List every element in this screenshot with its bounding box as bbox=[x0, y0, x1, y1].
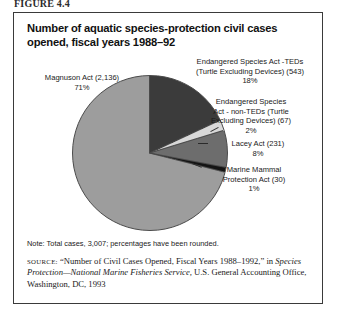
pie-label-teds-line1: Endangered Species Act -TEDs bbox=[186, 57, 314, 67]
pie-label-non-teds-line1: Endangered Species bbox=[192, 97, 310, 107]
pie-label-magnuson-line1: Magnuson Act (2,136) bbox=[28, 73, 136, 83]
pie-label-lacey-line1: Lacey Act (231) bbox=[210, 139, 306, 149]
pie-label-non-teds: Endangered Species Act - non-TEDs (Turtl… bbox=[192, 97, 310, 135]
figure-caption-cutoff: FIGURE 4.4 bbox=[14, 0, 134, 9]
pie-label-magnuson: Magnuson Act (2,136) 71% bbox=[28, 73, 136, 92]
pie-label-teds: Endangered Species Act -TEDs (Turtle Exc… bbox=[186, 57, 314, 86]
pie-label-marine-mammal-line2: Protection Act (30) bbox=[204, 175, 304, 185]
source-quote: “Number of Civil Cases Opened, Fiscal Ye… bbox=[60, 256, 273, 266]
figure-inner: Number of aquatic species-protection civ… bbox=[14, 13, 322, 303]
figure-source: SOURCE: “Number of Civil Cases Opened, F… bbox=[27, 256, 314, 290]
pie-label-magnuson-line2: 71% bbox=[28, 83, 136, 93]
leader-line-lacey bbox=[198, 143, 208, 144]
source-prefix: SOURCE: bbox=[27, 258, 58, 265]
figure-note: Note: Total cases, 3,007; percentages ha… bbox=[27, 239, 312, 249]
figure-page: FIGURE 4.4 Number of aquatic species-pro… bbox=[0, 0, 345, 316]
pie-separator-0 bbox=[149, 76, 150, 153]
pie-label-marine-mammal-line1: Marine Mammal bbox=[204, 165, 304, 175]
pie-label-non-teds-line2: Act - non-TEDs (Turtle bbox=[192, 107, 310, 117]
pie-label-teds-line2: (Turtle Excluding Devices) (543) bbox=[186, 67, 314, 77]
pie-label-lacey: Lacey Act (231) 8% bbox=[210, 139, 306, 158]
pie-label-marine-mammal: Marine Mammal Protection Act (30) 1% bbox=[204, 165, 304, 194]
pie-label-lacey-line2: 8% bbox=[210, 149, 306, 159]
figure-frame: Number of aquatic species-protection civ… bbox=[13, 12, 323, 304]
figure-title: Number of aquatic species-protection civ… bbox=[27, 21, 302, 49]
pie-label-teds-line3: 18% bbox=[186, 76, 314, 86]
pie-label-marine-mammal-line3: 1% bbox=[204, 184, 304, 194]
pie-label-non-teds-line3: Excluding Devices) (67) bbox=[192, 116, 310, 126]
